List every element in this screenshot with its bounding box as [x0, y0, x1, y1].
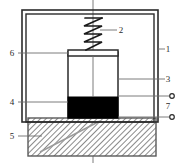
callout-label-5: 5	[10, 131, 15, 141]
callout-label-6: 6	[10, 48, 15, 58]
terminal-lower	[170, 115, 175, 120]
cross-section-diagram: 1 2 3 4 5 6 7	[0, 0, 180, 163]
callout-label-1: 1	[166, 44, 171, 54]
callout-label-4: 4	[10, 97, 15, 107]
hatched-base	[28, 118, 156, 156]
callout-label-3: 3	[166, 74, 171, 84]
terminal-upper	[170, 94, 175, 99]
piston-cap	[68, 50, 118, 56]
callout-label-2: 2	[119, 25, 124, 35]
diagram-root: 1 2 3 4 5 6 7	[0, 0, 180, 163]
black-block	[68, 97, 118, 118]
callout-label-7: 7	[166, 101, 171, 111]
